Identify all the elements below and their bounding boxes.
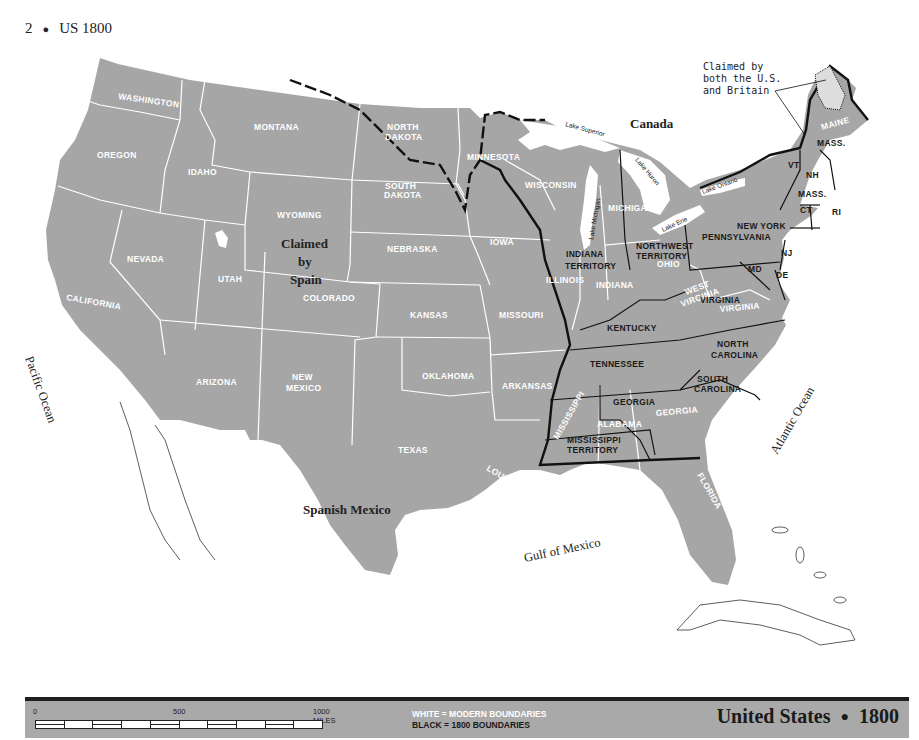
label-pennsylvania: PENNSYLVANIA bbox=[702, 232, 771, 242]
label-rhode-island: RI bbox=[832, 207, 841, 217]
label-maryland: MD bbox=[748, 264, 762, 274]
label-vermont: VT bbox=[788, 160, 800, 170]
label-connecticut: CT bbox=[800, 205, 812, 215]
label-arkansas: ARKANSAS bbox=[502, 381, 553, 391]
legend-white: WHITE = MODERN BOUNDARIES bbox=[412, 709, 546, 720]
label-south-carolina-1: SOUTH bbox=[697, 374, 728, 384]
scale-tick-500: 500 bbox=[173, 707, 186, 716]
label-new-mexico-1: NEW bbox=[292, 372, 313, 382]
label-alabama: ALABAMA bbox=[597, 419, 642, 429]
label-indiana: INDIANA bbox=[596, 280, 634, 290]
label-arizona: ARIZONA bbox=[196, 377, 237, 387]
baja-outline bbox=[120, 402, 215, 560]
label-michigan: MICHIGAN bbox=[608, 203, 653, 213]
label-wisconsin: WISCONSIN bbox=[525, 180, 577, 190]
scale-bar: 0 500 1000 MILES bbox=[33, 707, 333, 737]
label-north-carolina-1: NORTH bbox=[717, 339, 749, 349]
label-indiana-territory-1: INDIANA bbox=[566, 249, 604, 259]
scale-tick-0: 0 bbox=[33, 707, 37, 716]
label-ms-territory-2: TERRITORY bbox=[567, 445, 618, 455]
legend-black: BLACK = 1800 BOUNDARIES bbox=[412, 720, 546, 731]
label-georgia-1800: GEORGIA bbox=[613, 397, 655, 407]
label-new-york: NEW YORK bbox=[737, 221, 787, 231]
map-title: United States ● 1800 bbox=[717, 705, 899, 728]
label-wyoming: WYOMING bbox=[277, 210, 322, 220]
label-mass-south: MASS. bbox=[798, 189, 826, 199]
label-mass-north: MASS. bbox=[817, 138, 845, 148]
label-indiana-territory-2: TERRITORY bbox=[565, 261, 616, 271]
annotation-line-1: Claimed by bbox=[703, 61, 763, 72]
label-utah: UTAH bbox=[218, 274, 242, 284]
label-virginia-1800: VIRGINIA bbox=[700, 295, 740, 305]
map-title-year: 1800 bbox=[859, 705, 899, 728]
label-nevada: NEVADA bbox=[127, 254, 164, 264]
label-spanish-mexico: Spanish Mexico bbox=[303, 502, 391, 517]
label-north-dakota-1: NORTH bbox=[387, 122, 419, 132]
label-atlantic-ocean: Atlantic Ocean bbox=[767, 384, 817, 457]
us-landmass bbox=[46, 58, 868, 585]
label-south-dakota-2: DAKOTA bbox=[384, 190, 422, 200]
label-new-mexico-2: MEXICO bbox=[286, 383, 321, 393]
legend-bar: 0 500 1000 MILES WHITE = MODERN BOUNDARI… bbox=[25, 697, 909, 738]
annotation-line-2: both the U.S. bbox=[703, 73, 781, 84]
label-oklahoma: OKLAHOMA bbox=[422, 371, 474, 381]
label-north-dakota-2: DAKOTA bbox=[385, 132, 423, 142]
cuba-outline bbox=[677, 600, 855, 645]
bahamas-outline bbox=[772, 527, 846, 603]
bullet-icon: ● bbox=[841, 709, 849, 725]
map-title-text: United States bbox=[717, 705, 831, 728]
label-ms-territory-1: MISSISSIPPI bbox=[567, 435, 621, 445]
label-tennessee: TENNESSEE bbox=[590, 359, 644, 369]
boundary-legend: WHITE = MODERN BOUNDARIES BLACK = 1800 B… bbox=[412, 709, 546, 731]
label-nebraska: NEBRASKA bbox=[387, 244, 438, 254]
label-new-hampshire: NH bbox=[806, 170, 819, 180]
label-idaho: IDAHO bbox=[188, 167, 217, 177]
annotation-line-3: and Britain bbox=[703, 85, 769, 96]
label-claimed-1: Claimed bbox=[281, 236, 329, 251]
label-pacific-ocean: Pacific Ocean bbox=[22, 354, 59, 425]
label-iowa: IOWA bbox=[490, 237, 514, 247]
label-south-carolina-2: CAROLINA bbox=[694, 384, 741, 394]
label-montana: MONTANA bbox=[254, 122, 299, 132]
label-claimed-2: by bbox=[298, 254, 312, 269]
us-1800-map: WASHINGTON OREGON CALIFORNIA IDAHO NEVAD… bbox=[0, 0, 919, 700]
scale-graphic bbox=[35, 720, 323, 729]
label-new-jersey: NJ bbox=[781, 248, 792, 258]
label-missouri: MISSOURI bbox=[499, 310, 543, 320]
label-canada: Canada bbox=[630, 116, 674, 131]
label-nw-territory-1: NORTHWEST bbox=[636, 241, 694, 251]
label-minnesota: MINNESOTA bbox=[467, 152, 520, 162]
label-delaware: DE bbox=[776, 270, 788, 280]
label-north-carolina-2: CAROLINA bbox=[711, 350, 758, 360]
label-kansas: KANSAS bbox=[410, 310, 448, 320]
label-gulf-of-mexico: Gulf of Mexico bbox=[523, 535, 602, 565]
label-oregon: OREGON bbox=[97, 150, 137, 160]
label-illinois: ILLINOIS bbox=[546, 275, 584, 285]
label-claimed-3: Spain bbox=[290, 272, 323, 287]
label-texas: TEXAS bbox=[398, 445, 428, 455]
label-colorado: COLORADO bbox=[303, 293, 355, 303]
label-kentucky: KENTUCKY bbox=[607, 323, 657, 333]
label-nw-territory-2: TERRITORY bbox=[636, 251, 687, 261]
